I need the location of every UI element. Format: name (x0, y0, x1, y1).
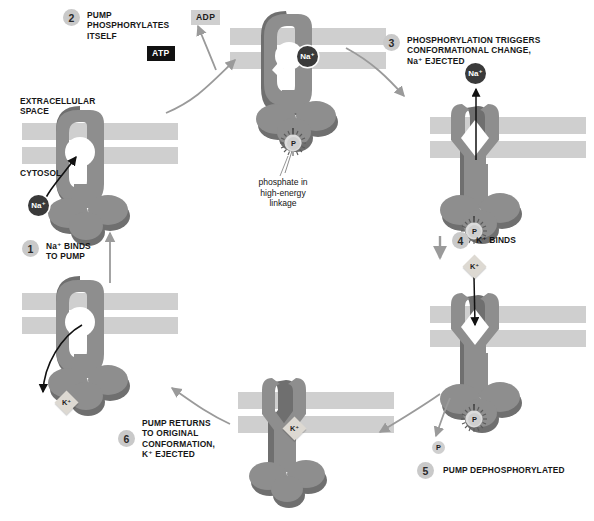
potassium-ion-label: K⁺ (290, 424, 299, 433)
step-3-label: PHOSPHORYLATION TRIGGERS CONFORMATIONAL … (407, 34, 540, 66)
sodium-ion-free: Na⁺ (28, 195, 49, 216)
phosphate-note: phosphate in high-energy linkage (243, 177, 323, 209)
step-2-label: PUMP PHOSPHORYLATES ITSELF (87, 9, 169, 41)
sodium-ion-bound: Na⁺ (297, 46, 318, 67)
step-3-group: 3 PHOSPHORYLATION TRIGGERS CONFORMATIONA… (383, 34, 540, 66)
extracellular-space-label: EXTRACELLULAR SPACE (20, 96, 95, 117)
pump-protein-state-4 (440, 277, 522, 433)
step-1-group: 1 Na⁺ BINDS TO PUMP (22, 240, 91, 262)
step-2-number: 2 (63, 9, 80, 26)
phosphate-label-1: P (287, 137, 300, 150)
step-5-label: PUMP DEPHOSPHORYLATED (443, 465, 565, 475)
phosphate-note-leader (280, 156, 288, 176)
potassium-ion-label: K⁺ (62, 398, 71, 407)
step-6-group: 6 PUMP RETURNS TO ORIGINAL CONFORMATION,… (118, 418, 215, 460)
step-2-group: 2 PUMP PHOSPHORYLATES ITSELF (63, 9, 169, 41)
phosphate-released: P (432, 441, 445, 454)
step-6-label: PUMP RETURNS TO ORIGINAL CONFORMATION, K… (142, 418, 215, 460)
phosphate-label-2: P (468, 225, 481, 238)
adp-token: ADP (191, 10, 220, 25)
sodium-ion-ejected: Na⁺ (465, 63, 486, 84)
cycle-arrow-2 (166, 60, 235, 113)
step-1-number: 1 (22, 240, 39, 257)
phosphate-label-3: P (468, 413, 481, 426)
step-4-number: 4 (452, 232, 469, 249)
step-6-number: 6 (118, 430, 135, 447)
cytosol-label: CYTOSOL (20, 168, 61, 178)
step-1-label: Na⁺ BINDS TO PUMP (46, 240, 91, 262)
atp-hydrolysis-arrow (198, 26, 216, 70)
step-5-number: 5 (417, 462, 434, 479)
step-4-group: 4 K⁺ BINDS (452, 232, 516, 249)
potassium-ion-label: K⁺ (470, 262, 479, 271)
atp-token: ATP (147, 46, 175, 61)
pump-protein-state-3 (440, 89, 522, 244)
step-3-number: 3 (383, 34, 400, 51)
membrane-bilayer-5 (238, 392, 394, 433)
step-5-group: 5 PUMP DEPHOSPHORYLATED (417, 462, 565, 479)
pump-cycle-diagram: EXTRACELLULAR SPACE CYTOSOL 1 Na⁺ BINDS … (0, 0, 594, 521)
step-4-label: K⁺ BINDS (476, 235, 516, 245)
